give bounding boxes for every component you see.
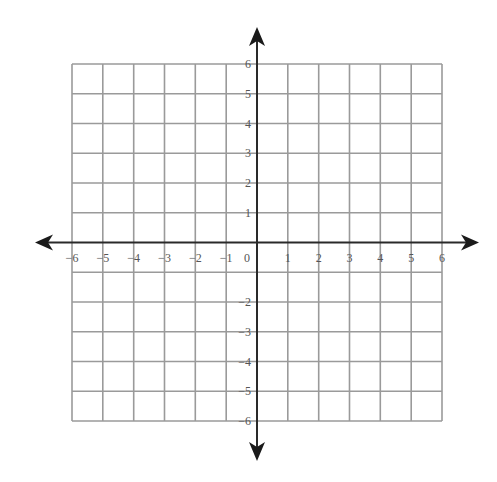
y-tick-label: 2 <box>245 176 251 190</box>
y-tick-label: 5 <box>245 87 251 101</box>
y-tick-label: −2 <box>238 295 251 309</box>
y-tick-label: −5 <box>238 384 251 398</box>
x-tick-label: 3 <box>347 251 353 265</box>
y-tick-label: −6 <box>238 414 251 428</box>
x-tick-label: 2 <box>316 251 322 265</box>
x-tick-label: 5 <box>408 251 414 265</box>
x-tick-label: −2 <box>189 251 202 265</box>
y-tick-label: −3 <box>238 325 251 339</box>
coordinate-plane: −6 −5 −4 −3 −2 −1 0 1 2 3 4 5 6 6 5 4 3 … <box>0 0 497 482</box>
x-tick-label: −1 <box>220 251 233 265</box>
y-tick-label: 4 <box>245 117 251 131</box>
x-tick-label: −3 <box>158 251 171 265</box>
y-tick-label: −4 <box>238 355 251 369</box>
y-tick-label: 3 <box>245 146 251 160</box>
origin-label: 0 <box>244 251 250 265</box>
x-tick-label: −6 <box>66 251 79 265</box>
x-tick-label: −4 <box>127 251 140 265</box>
y-tick-label: 6 <box>245 57 251 71</box>
x-tick-label: 1 <box>285 251 291 265</box>
axes <box>35 27 479 461</box>
y-tick-label: 1 <box>245 206 251 220</box>
x-tick-label: −5 <box>96 251 109 265</box>
x-axis-labels: −6 −5 −4 −3 −2 −1 0 1 2 3 4 5 6 <box>66 251 445 265</box>
x-tick-label: 4 <box>377 251 383 265</box>
x-tick-label: 6 <box>439 251 445 265</box>
